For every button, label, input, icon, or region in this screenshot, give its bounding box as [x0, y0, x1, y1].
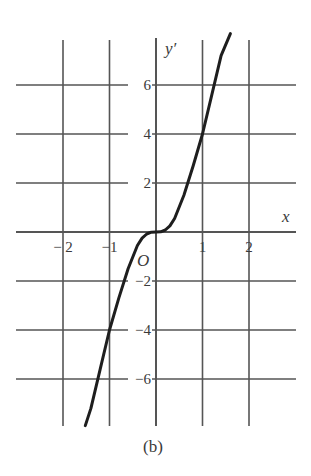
y-tick-label: 4	[144, 126, 152, 142]
x-axis-label: x	[281, 207, 290, 226]
y-tick-label: −6	[135, 371, 151, 387]
origin-label: O	[137, 251, 149, 270]
x-tick-labels: − 2−112	[53, 239, 253, 255]
data-curve	[85, 34, 230, 426]
x-tick-label: − 2	[53, 239, 73, 255]
x-tick-label: 1	[199, 239, 207, 255]
x-tick-label: −1	[102, 239, 118, 255]
figure-caption: (b)	[143, 437, 163, 456]
y-tick-label: −4	[135, 322, 151, 338]
y-tick-label: 2	[144, 175, 152, 191]
y-axis-label: y′	[163, 39, 177, 58]
x-tick-label: 2	[245, 239, 253, 255]
y-tick-label: 6	[144, 77, 152, 93]
chart: − 2−112 642−2−4−6 x y′ O (b)	[0, 0, 311, 476]
y-tick-label: −2	[135, 273, 151, 289]
